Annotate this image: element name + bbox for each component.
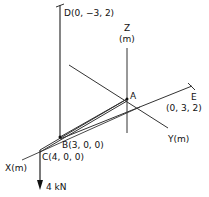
- label-e-coords: (0, 3, 2): [166, 103, 202, 113]
- structure-diagram: D(0, −3, 2) Z (m) A E (0, 3, 2) Y(m) B(3…: [0, 0, 209, 197]
- label-d: D(0, −3, 2): [64, 8, 114, 18]
- label-load: 4 kN: [46, 182, 67, 192]
- joint-b: [59, 136, 62, 139]
- label-z: Z: [124, 23, 130, 33]
- label-x-axis: X(m): [5, 163, 27, 173]
- joint-a: [126, 98, 129, 101]
- label-c: C(4, 0, 0): [42, 152, 84, 162]
- cable-ba: [60, 99, 127, 137]
- label-y-axis: Y(m): [167, 134, 189, 144]
- label-a: A: [130, 91, 137, 101]
- label-z-unit: (m): [119, 34, 135, 44]
- y-axis: [69, 65, 168, 128]
- label-b: B(3, 0, 0): [62, 140, 104, 150]
- label-e: E: [191, 92, 197, 102]
- e-marker: [188, 83, 195, 90]
- load-arrow-head-icon: [37, 180, 43, 190]
